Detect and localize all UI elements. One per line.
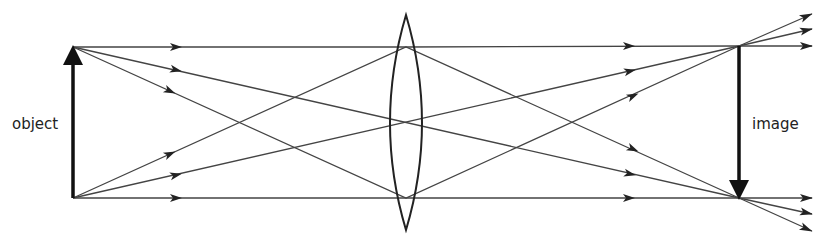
ray-top-parallel — [73, 47, 812, 231]
object-label: object — [12, 115, 58, 133]
ray-bottom-center — [73, 29, 812, 198]
arrowhead-icon — [163, 148, 177, 160]
ray-arrowheads — [163, 10, 814, 235]
rays-from-object-top — [73, 47, 812, 231]
arrowhead-icon — [799, 10, 814, 23]
ray-diagram — [0, 0, 829, 242]
object-arrow — [63, 45, 83, 198]
arrowhead-icon — [799, 208, 813, 219]
image-label: image — [752, 115, 799, 133]
arrowhead-icon — [623, 66, 636, 76]
arrowhead-icon — [169, 65, 182, 75]
ray-bottom-focal — [73, 46, 812, 198]
ray-top-center — [73, 47, 812, 214]
arrowhead-icon — [799, 25, 813, 36]
rays-from-object-bottom — [73, 14, 812, 198]
arrowhead-icon — [163, 85, 177, 97]
ray-top-focal — [73, 47, 812, 198]
image-arrow — [729, 46, 749, 200]
arrowhead-icon — [799, 222, 814, 235]
arrowhead-icon — [626, 143, 640, 155]
ray-bottom-parallel — [73, 14, 812, 198]
